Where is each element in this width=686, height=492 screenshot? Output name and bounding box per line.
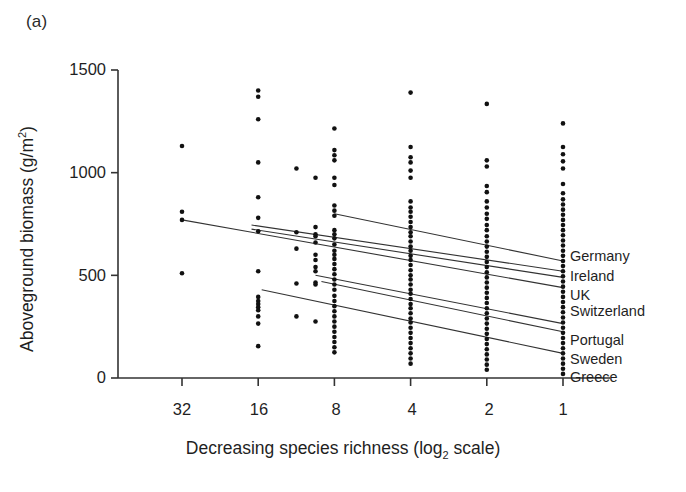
data-point <box>313 258 318 263</box>
data-point <box>408 160 413 165</box>
data-point <box>332 203 337 208</box>
data-point <box>485 290 490 295</box>
data-point <box>408 220 413 225</box>
data-point <box>561 159 566 164</box>
data-point <box>561 351 566 356</box>
data-point <box>485 367 490 372</box>
data-point <box>332 262 337 267</box>
data-point <box>332 183 337 188</box>
data-point <box>256 88 261 93</box>
data-point <box>485 301 490 306</box>
data-point <box>561 197 566 202</box>
y-tick-label: 500 <box>44 266 106 285</box>
data-point <box>332 319 337 324</box>
figure-panel-a: (a) Aboveground biomass (g/m2) Decreasin… <box>0 0 686 492</box>
data-point <box>332 257 337 262</box>
data-point <box>561 336 566 341</box>
x-tick-label: 16 <box>239 400 279 419</box>
y-axis-label-superscript: 2 <box>16 132 28 138</box>
data-point <box>332 345 337 350</box>
data-point <box>294 281 299 286</box>
data-point <box>408 331 413 336</box>
data-point <box>485 228 490 233</box>
data-point <box>313 319 318 324</box>
data-point <box>256 229 261 234</box>
data-point <box>408 258 413 263</box>
data-point <box>485 275 490 280</box>
data-point <box>332 228 337 233</box>
series-label-switzerland: Switzerland <box>570 303 645 319</box>
data-point <box>485 190 490 195</box>
data-point <box>256 321 261 326</box>
data-point <box>408 263 413 268</box>
regression-line-uk <box>252 229 563 277</box>
data-point <box>485 205 490 210</box>
data-point <box>561 233 566 238</box>
data-point <box>485 199 490 204</box>
data-point <box>332 282 337 287</box>
x-tick-label: 8 <box>316 400 356 419</box>
data-point <box>561 145 566 150</box>
data-point <box>332 299 337 304</box>
y-tick-label: 1500 <box>44 60 106 79</box>
data-point <box>332 253 337 258</box>
data-point <box>561 202 566 207</box>
data-point <box>485 217 490 222</box>
data-point <box>256 160 261 165</box>
series-label-germany: Germany <box>570 248 630 264</box>
data-point <box>561 320 566 325</box>
regression-line-layer <box>182 214 563 354</box>
data-point <box>256 314 261 319</box>
data-point <box>485 321 490 326</box>
data-point <box>313 176 318 181</box>
data-point <box>561 264 566 269</box>
data-point <box>294 166 299 171</box>
data-point <box>294 246 299 251</box>
data-point <box>332 340 337 345</box>
data-point <box>408 282 413 287</box>
y-tick-label: 0 <box>44 368 106 387</box>
data-point <box>332 287 337 292</box>
data-point <box>408 205 413 210</box>
y-tick-label: 1000 <box>44 163 106 182</box>
data-point <box>332 324 337 329</box>
data-point <box>561 269 566 274</box>
data-point <box>561 191 566 196</box>
data-point <box>561 356 566 361</box>
data-point <box>332 242 337 247</box>
data-point <box>256 344 261 349</box>
data-point <box>408 341 413 346</box>
data-point <box>561 238 566 243</box>
data-point <box>332 294 337 299</box>
series-label-greece: Greece <box>570 369 618 385</box>
data-point <box>485 270 490 275</box>
data-point <box>561 361 566 366</box>
data-point <box>408 209 413 214</box>
data-point <box>561 341 566 346</box>
data-point <box>485 352 490 357</box>
data-point <box>561 315 566 320</box>
data-point <box>332 213 337 218</box>
data-point <box>408 346 413 351</box>
data-point <box>485 362 490 367</box>
data-point <box>561 248 566 253</box>
data-point <box>332 314 337 319</box>
data-point <box>408 155 413 160</box>
data-point <box>485 102 490 107</box>
data-point <box>408 168 413 173</box>
data-point <box>332 126 337 131</box>
data-point <box>408 230 413 235</box>
series-label-portugal: Portugal <box>570 332 624 348</box>
data-point <box>408 351 413 356</box>
data-point <box>332 330 337 335</box>
series-label-ireland: Ireland <box>570 268 614 284</box>
data-point <box>408 248 413 253</box>
data-point <box>561 300 566 305</box>
data-point <box>561 243 566 248</box>
data-point <box>408 145 413 150</box>
regression-line-sweden <box>321 281 563 331</box>
data-point <box>408 239 413 244</box>
data-point <box>332 248 337 253</box>
data-point <box>256 117 261 122</box>
data-point <box>332 309 337 314</box>
